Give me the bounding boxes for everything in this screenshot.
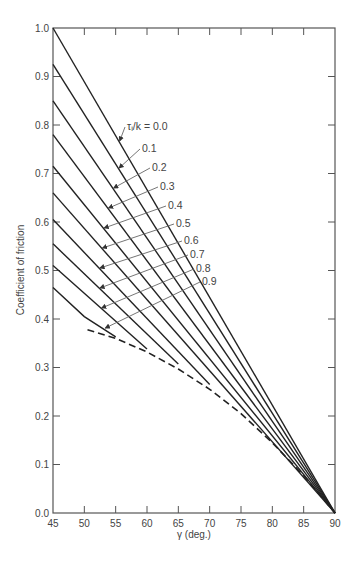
annotation-label: 0.7 [190,248,205,260]
y-tick-label: 0.9 [35,71,49,82]
annotation-leader [103,224,174,248]
y-tick-label: 0.6 [35,217,49,228]
x-tick-label: 90 [329,518,341,529]
annotation-leader [119,149,140,168]
annotation-label: τᵢ/k = 0.0 [127,120,168,132]
annotation-label: 0.5 [176,217,191,229]
annotation-leader [120,127,125,141]
curve-tau-0-1 [53,64,335,513]
annotation-label: 0.9 [202,275,217,287]
x-tick-label: 60 [141,518,153,529]
x-tick-label: 70 [204,518,216,529]
y-tick-label: 0.3 [35,362,49,373]
y-tick-label: 0.8 [35,120,49,131]
chart-canvas: 455055606570758085900.00.10.20.30.40.50.… [0,0,357,562]
x-tick-label: 85 [298,518,310,529]
y-tick-label: 0.7 [35,168,49,179]
annotation-label: 0.4 [168,199,183,211]
y-tick-label: 0.5 [35,265,49,276]
annotation-label: 0.1 [142,142,157,154]
curve-tau-0-7 [53,244,178,364]
curve-tau-0-0 [53,28,335,513]
annotation-label: 0.3 [160,180,175,192]
annotation-leader [102,269,194,308]
y-tick-label: 1.0 [35,23,49,34]
limit-curve-dashed [88,330,336,513]
axis-ticks: 455055606570758085900.00.10.20.30.40.50.… [35,23,341,530]
curve-tau-0-4 [53,166,335,513]
annotation-leader [109,187,158,208]
x-tick-label: 75 [235,518,247,529]
annotation-label: 0.6 [184,234,199,246]
y-tick-label: 0.0 [35,508,49,519]
x-tick-label: 65 [173,518,185,529]
annotation-label: 0.2 [152,161,167,173]
curve-tau-0-2 [53,101,335,513]
x-axis-label: γ (deg.) [177,529,211,540]
x-tick-label: 50 [79,518,91,529]
curve-tau-0-8 [53,266,147,350]
y-tick-label: 0.1 [35,459,49,470]
annotation-label: 0.8 [196,262,211,274]
y-axis-label: Coefficient of friction [15,225,26,315]
y-tick-label: 0.4 [35,314,49,325]
friction-curves [53,28,335,513]
annotation-leader [100,255,188,288]
y-tick-label: 0.2 [35,411,49,422]
x-tick-label: 55 [110,518,122,529]
x-tick-label: 45 [47,518,59,529]
x-tick-label: 80 [267,518,279,529]
